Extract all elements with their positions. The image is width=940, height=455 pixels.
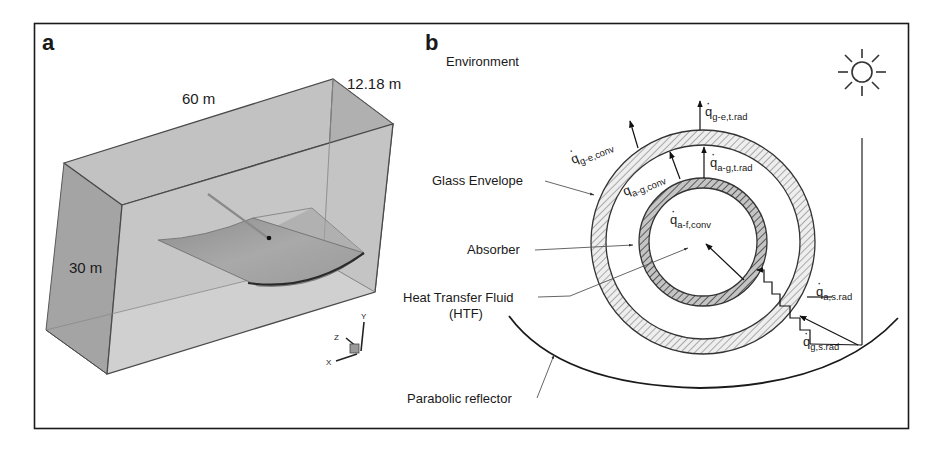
svg-text:qg,s.rad: qg,s.rad <box>803 334 839 352</box>
svg-text:qa,s.rad: qa,s.rad <box>816 284 852 302</box>
environment-label: Environment <box>446 54 519 69</box>
axis-z-label: Z <box>334 333 339 342</box>
svg-text:qa-f,conv: qa-f,conv <box>670 212 711 230</box>
absorber-label: Absorber <box>467 242 520 257</box>
q-g-e-conv-label: qg-e,conv · <box>565 128 616 169</box>
glass-envelope-ring <box>599 138 808 347</box>
svg-text:qa-g,t.rad: qa-g,t.rad <box>710 155 753 173</box>
panel-a: a 60 m 12.18 m 30 m <box>42 30 401 374</box>
htf-abbrev-label: (HTF) <box>449 306 483 321</box>
parabolic-reflector-label: Parabolic reflector <box>407 391 512 406</box>
q-g-e-trad-label: qg-e,t.rad · <box>705 95 748 122</box>
svg-text:qg-e,t.rad: qg-e,t.rad <box>705 104 748 122</box>
svg-text:·: · <box>671 203 675 218</box>
svg-text:·: · <box>817 275 821 290</box>
panel-b: b Environment <box>403 30 898 406</box>
figure: a 60 m 12.18 m 30 m <box>0 0 940 455</box>
absorber-ring <box>644 183 762 301</box>
glass-envelope-label: Glass Envelope <box>432 173 523 188</box>
svg-text:·: · <box>706 95 710 110</box>
dimension-length-label: 60 m <box>182 90 215 107</box>
dimension-depth-label: 12.18 m <box>347 75 401 92</box>
axis-triad-icon: Y Z X <box>326 312 367 367</box>
htf-label: Heat Transfer Fluid <box>403 290 514 305</box>
panel-a-label: a <box>42 30 55 55</box>
sun-icon <box>838 49 886 96</box>
q-a-f-conv-label: qa-f,conv · <box>670 203 711 230</box>
q-a-s-rad-label: qa,s.rad · <box>816 275 852 302</box>
axis-x-label: X <box>326 358 332 367</box>
q-g-s-rad-label: qg,s.rad · <box>803 325 839 352</box>
axis-y-label: Y <box>361 312 367 321</box>
svg-text:qg-e,conv: qg-e,conv <box>569 136 616 169</box>
svg-text:·: · <box>804 325 808 340</box>
svg-text:·: · <box>711 146 715 161</box>
dimension-height-label: 30 m <box>69 259 102 276</box>
panel-b-label: b <box>425 30 438 55</box>
